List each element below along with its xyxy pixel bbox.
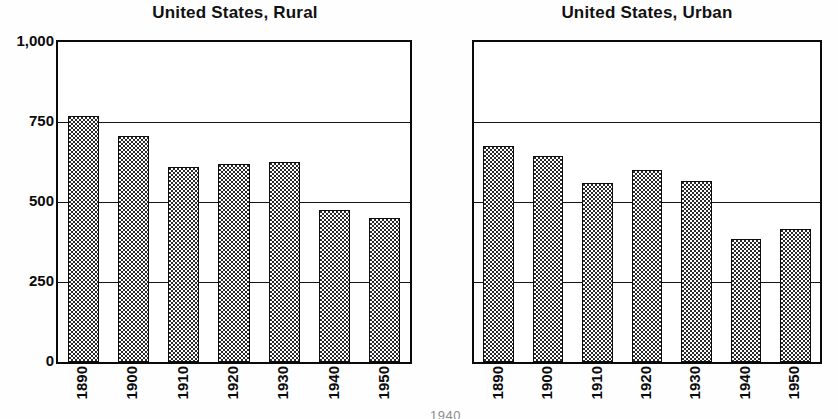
figure-root: United States, Rural 02505007501,000 189…: [0, 0, 838, 419]
bar: [218, 164, 249, 362]
x-tick-text: 1930: [687, 366, 702, 399]
bar: [533, 156, 564, 362]
bar: [731, 239, 762, 362]
bar-series-urban: [474, 42, 820, 362]
x-tick-text: 1890: [489, 366, 504, 399]
chart-panel-urban: United States, Urban 1890190019101920193…: [432, 0, 838, 419]
x-axis-rural: 1890190019101920193019401950: [56, 366, 412, 419]
plot-area-urban: [472, 40, 822, 364]
bar: [269, 162, 300, 362]
bar: [780, 229, 811, 362]
clipped-footer-text: 1940: [430, 409, 838, 419]
y-tick-label: 250: [2, 273, 54, 288]
bar: [681, 181, 712, 362]
y-tick-label: 500: [2, 193, 54, 208]
x-tick-text: 1910: [588, 366, 603, 399]
bar: [582, 183, 613, 362]
x-tick-text: 1910: [174, 366, 189, 399]
x-tick-text: 1900: [124, 366, 139, 399]
x-tick-text: 1940: [325, 366, 340, 399]
x-tick-text: 1920: [225, 366, 240, 399]
bar: [319, 210, 350, 362]
bar: [632, 170, 663, 362]
bar: [68, 116, 99, 362]
chart-title-urban: United States, Urban: [472, 2, 822, 24]
bar: [483, 146, 514, 362]
plot-area-rural: [56, 40, 412, 364]
bar: [168, 167, 199, 362]
y-tick-label: 750: [2, 113, 54, 128]
y-tick-label: 0: [2, 353, 54, 368]
chart-title-rural: United States, Rural: [55, 2, 415, 24]
x-tick-text: 1920: [638, 366, 653, 399]
bar: [118, 136, 149, 362]
y-tick-label: 1,000: [2, 33, 54, 48]
x-tick-text: 1900: [539, 366, 554, 399]
chart-panel-rural: United States, Rural 02505007501,000 189…: [0, 0, 432, 419]
x-tick-text: 1930: [275, 366, 290, 399]
y-axis-rural: 02505007501,000: [0, 40, 54, 364]
x-tick-text: 1940: [736, 366, 751, 399]
x-tick-text: 1950: [375, 366, 390, 399]
bar: [369, 218, 400, 362]
x-tick-text: 1950: [786, 366, 801, 399]
bar-series-rural: [58, 42, 410, 362]
x-tick-text: 1890: [74, 366, 89, 399]
